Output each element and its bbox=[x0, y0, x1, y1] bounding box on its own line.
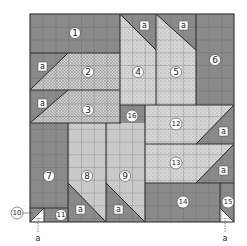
label-2: 2 bbox=[83, 67, 94, 78]
label-15: 15 bbox=[222, 196, 234, 208]
svg-text:14: 14 bbox=[179, 198, 188, 206]
label-16: 16 bbox=[126, 110, 138, 122]
callout-a-10: a bbox=[36, 234, 41, 243]
label-6: 6 bbox=[210, 55, 221, 66]
label-11: 11 bbox=[56, 210, 67, 221]
svg-text:15: 15 bbox=[224, 198, 233, 206]
svg-text:a: a bbox=[78, 205, 83, 214]
svg-text:a: a bbox=[142, 21, 147, 30]
svg-text:4: 4 bbox=[135, 67, 141, 77]
label-12: 12 bbox=[170, 118, 182, 130]
svg-text:9: 9 bbox=[122, 171, 128, 181]
svg-text:11: 11 bbox=[57, 211, 66, 219]
label-4: 4 bbox=[133, 67, 144, 78]
svg-text:7: 7 bbox=[46, 171, 52, 181]
svg-text:1: 1 bbox=[72, 28, 78, 38]
label-13: 13 bbox=[170, 157, 182, 169]
svg-text:13: 13 bbox=[172, 159, 181, 167]
quilt-block-diagram: 1 2 3 4 5 6 7 8 9 10 11 12 13 14 15 16 a… bbox=[0, 0, 247, 246]
svg-text:a: a bbox=[116, 205, 121, 214]
label-9: 9 bbox=[120, 171, 131, 182]
a-label-4: a bbox=[140, 21, 149, 30]
a-label-8: a bbox=[76, 205, 85, 214]
svg-text:3: 3 bbox=[85, 105, 91, 115]
label-3: 3 bbox=[83, 105, 94, 116]
svg-text:a: a bbox=[221, 127, 226, 136]
svg-text:6: 6 bbox=[212, 55, 218, 65]
label-1: 1 bbox=[70, 28, 81, 39]
a-label-9: a bbox=[114, 205, 123, 214]
svg-text:8: 8 bbox=[84, 171, 90, 181]
label-8: 8 bbox=[82, 171, 93, 182]
label-5: 5 bbox=[171, 67, 182, 78]
label-10: 10 bbox=[11, 207, 23, 219]
svg-text:10: 10 bbox=[13, 209, 22, 217]
svg-text:a: a bbox=[221, 166, 226, 175]
label-14: 14 bbox=[177, 196, 189, 208]
a-label-12: a bbox=[219, 127, 228, 136]
a-label-5: a bbox=[179, 21, 188, 30]
callout-a-15: a bbox=[223, 234, 228, 243]
a-label-3: a bbox=[38, 99, 47, 108]
label-7: 7 bbox=[44, 171, 55, 182]
a-label-2: a bbox=[38, 62, 47, 71]
a-label-13: a bbox=[219, 166, 228, 175]
svg-text:16: 16 bbox=[128, 112, 137, 120]
svg-text:5: 5 bbox=[173, 67, 179, 77]
svg-text:a: a bbox=[40, 99, 45, 108]
svg-text:12: 12 bbox=[172, 120, 181, 128]
svg-text:2: 2 bbox=[85, 67, 91, 77]
svg-text:a: a bbox=[181, 21, 186, 30]
svg-text:a: a bbox=[40, 62, 45, 71]
